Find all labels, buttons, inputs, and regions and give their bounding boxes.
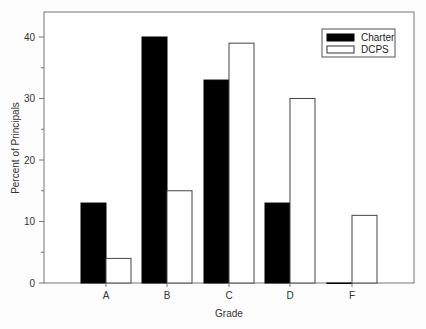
bar-dcps-a — [106, 258, 131, 283]
x-tick-label-d: D — [286, 290, 293, 301]
y-tick-label: 40 — [24, 32, 36, 43]
legend-swatch-charter — [327, 34, 354, 41]
legend: Charter DCPS — [322, 29, 395, 57]
x-axis: ABCDF — [103, 283, 355, 301]
bar-dcps-c — [229, 43, 254, 283]
bar-charter-c — [204, 80, 229, 283]
x-axis-title: Grade — [215, 308, 243, 319]
y-tick-label: 20 — [24, 155, 36, 166]
bar-chart: 010203040 ABCDF Percent of Principals Gr… — [0, 0, 426, 329]
bar-dcps-b — [167, 191, 192, 283]
bar-dcps-d — [290, 99, 315, 284]
x-tick-label-a: A — [103, 290, 110, 301]
x-tick-label-c: C — [225, 290, 232, 301]
bar-charter-f — [327, 283, 352, 284]
y-axis-title: Percent of Principals — [10, 102, 21, 194]
legend-label-dcps: DCPS — [361, 44, 389, 55]
bar-charter-b — [142, 37, 167, 283]
y-tick-label: 10 — [24, 216, 36, 227]
x-tick-label-b: B — [164, 290, 171, 301]
bar-charter-d — [265, 203, 290, 283]
y-tick-label: 30 — [24, 93, 36, 104]
legend-label-charter: Charter — [361, 32, 395, 43]
bar-charter-a — [81, 203, 106, 283]
legend-swatch-dcps — [327, 46, 354, 53]
x-tick-label-f: F — [349, 290, 355, 301]
y-axis: 010203040 — [24, 32, 44, 289]
bar-dcps-f — [352, 215, 377, 283]
y-tick-label: 0 — [29, 278, 35, 289]
